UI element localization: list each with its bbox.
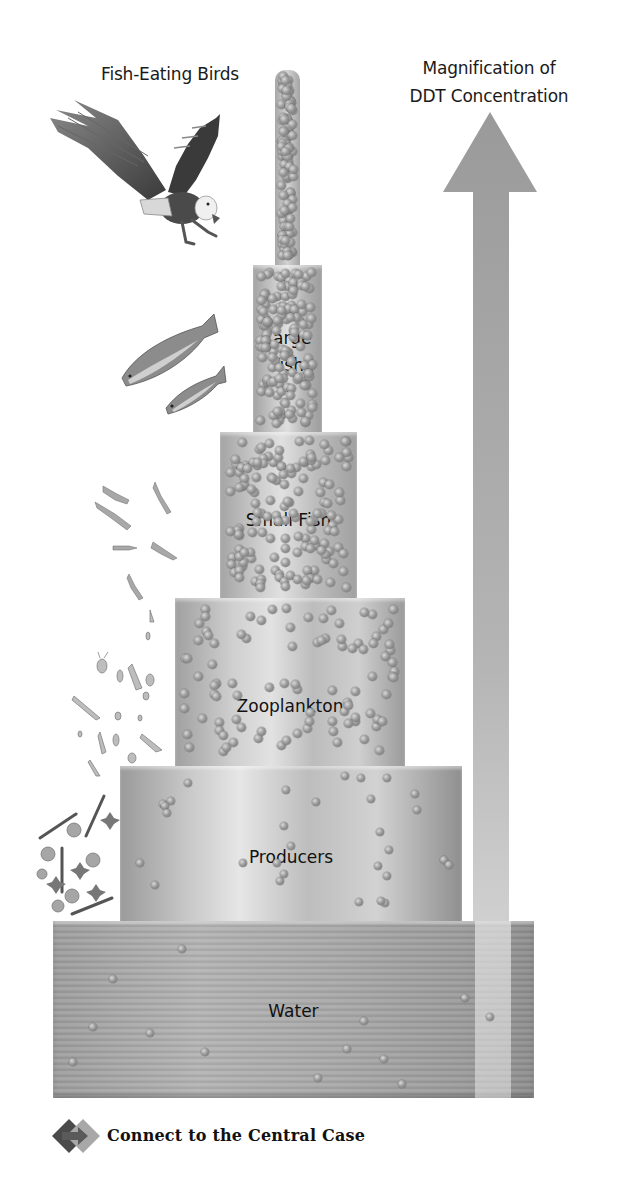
ddt-particle (281, 269, 290, 278)
ddt-particle (281, 236, 290, 245)
ddt-particle (329, 727, 338, 736)
ddt-particle (286, 623, 295, 632)
ddt-particle (198, 714, 207, 723)
ddt-particle (184, 779, 192, 787)
ddt-particle (233, 691, 242, 700)
ddt-particle (283, 497, 292, 506)
ddt-particle (344, 719, 353, 728)
ddt-particle (281, 76, 290, 85)
ddt-particle (330, 527, 339, 536)
ddt-particle (277, 282, 286, 291)
ddt-particle (272, 419, 281, 428)
ddt-particle (270, 553, 279, 562)
ddt-particle (389, 673, 398, 682)
tier-label-water: Water (53, 1000, 534, 1022)
zooplankton-icon (70, 600, 165, 780)
ddt-particle (294, 373, 303, 382)
ddt-particle (257, 727, 266, 736)
ddt-particle (285, 222, 294, 231)
ddt-particle (258, 353, 267, 362)
ddt-particle (277, 181, 286, 190)
ddt-particle (210, 639, 219, 648)
ddt-particle (136, 859, 144, 867)
ddt-particle (270, 340, 279, 349)
ddt-particle (281, 534, 290, 543)
ddt-particle (219, 731, 228, 740)
ddt-particle (273, 859, 281, 867)
ddt-particle (297, 300, 306, 309)
ddt-particle (383, 774, 391, 782)
ddt-particle (336, 496, 345, 505)
ddt-particle (300, 381, 309, 390)
ddt-particle (257, 272, 266, 281)
ddt-particle (308, 360, 317, 369)
ddt-particle (348, 644, 357, 653)
ddt-particle (413, 806, 421, 814)
ddt-particle (299, 320, 308, 329)
ddt-particle (257, 296, 266, 305)
ddt-particle (294, 487, 303, 496)
ddt-particle (287, 357, 296, 366)
ddt-particle (288, 203, 297, 212)
ddt-particle (289, 286, 298, 295)
ddt-particle (286, 313, 295, 322)
ddt-particle (274, 517, 283, 526)
ddt-particle (381, 652, 390, 661)
ddt-particle (69, 1058, 77, 1066)
eagle-icon (48, 96, 233, 256)
ddt-particle (281, 399, 290, 408)
ddt-particle (286, 214, 295, 223)
ddt-particle (294, 532, 303, 541)
ddt-particle (445, 861, 453, 869)
ddt-particle (301, 417, 310, 426)
ddt-particle (314, 1074, 322, 1082)
ddt-particle (306, 303, 315, 312)
ddt-particle (251, 499, 260, 508)
ddt-particle (299, 474, 308, 483)
ddt-particle (185, 743, 194, 752)
ddt-particle (486, 1013, 494, 1021)
ddt-particle (299, 457, 308, 466)
ddt-particle (368, 610, 377, 619)
ddt-particle (385, 846, 393, 854)
ddt-particle (273, 316, 282, 325)
ddt-particle (246, 612, 255, 621)
magnification-title-line1: Magnification of (389, 58, 589, 78)
ddt-particle (259, 307, 268, 316)
ddt-particle (297, 408, 306, 417)
ddt-particle (359, 645, 368, 654)
ddt-particle (234, 530, 243, 539)
ddt-particle (304, 369, 313, 378)
ddt-particle (333, 738, 342, 747)
ddt-particle (252, 473, 261, 482)
ddt-particle (312, 798, 320, 806)
ddt-particle (291, 680, 300, 689)
ddt-particle (231, 455, 240, 464)
ddt-particle (369, 639, 378, 648)
ddt-particle (283, 251, 292, 260)
ddt-particle (326, 578, 335, 587)
ddt-particle (256, 416, 265, 425)
ddt-particle (194, 672, 203, 681)
ddt-particle (279, 168, 288, 177)
ddt-particle (257, 616, 266, 625)
ddt-particle (293, 729, 302, 738)
ddt-particle (360, 608, 369, 617)
large-fish-icon (118, 310, 228, 420)
ddt-particle (275, 363, 284, 372)
connect-central-case-link[interactable]: Connect to the Central Case (50, 1118, 370, 1154)
connect-arrow-icon (52, 1119, 104, 1153)
ddt-particle (178, 945, 186, 953)
ddt-particle (320, 440, 329, 449)
ddt-particle (289, 165, 298, 174)
ddt-particle (317, 546, 326, 555)
ddt-particle (222, 743, 231, 752)
tier-water: Water (53, 921, 534, 1098)
ddt-particle (328, 717, 337, 726)
phytoplankton-icon (36, 788, 126, 918)
ddt-particle (183, 654, 192, 663)
ddt-particle (305, 717, 314, 726)
ddt-particle (268, 605, 277, 614)
ddt-particle (235, 483, 244, 492)
ddt-particle (321, 456, 330, 465)
